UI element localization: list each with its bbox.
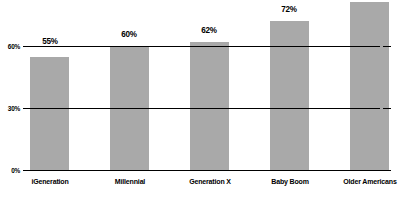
data-label-generation-x: 62% bbox=[187, 25, 230, 35]
gridline-30 bbox=[23, 108, 380, 109]
bar-igeneration[interactable] bbox=[30, 57, 69, 170]
category-label-igeneration: iGeneration bbox=[18, 177, 81, 186]
data-label-baby-boom: 72% bbox=[267, 4, 310, 14]
category-label-baby-boom: Baby Boom bbox=[258, 177, 321, 186]
category-label-millennial: Millennial bbox=[98, 177, 161, 186]
gridline-60 bbox=[23, 46, 380, 47]
data-label-igeneration: 55% bbox=[28, 36, 71, 46]
bar-older-americans[interactable] bbox=[350, 2, 389, 170]
bar-chart: 60% 30% 0% 55% 60% 62% 72% iGeneration M… bbox=[0, 0, 402, 199]
bar-baby-boom[interactable] bbox=[270, 21, 309, 170]
axis-baseline bbox=[23, 170, 391, 171]
category-label-generation-x: Generation X bbox=[178, 177, 241, 186]
ytick-label-60: 60% bbox=[3, 42, 20, 51]
category-label-older-americans: Older Americans bbox=[337, 177, 402, 186]
bar-generation-x[interactable] bbox=[190, 42, 229, 170]
ytick-label-30: 30% bbox=[3, 104, 20, 113]
plot-area: 60% 30% 0% 55% 60% 62% 72% iGeneration M… bbox=[0, 0, 402, 199]
right-tick-60 bbox=[383, 46, 391, 47]
ytick-label-0: 0% bbox=[3, 166, 20, 175]
data-label-millennial: 60% bbox=[107, 29, 150, 39]
right-tick-30 bbox=[383, 108, 391, 109]
